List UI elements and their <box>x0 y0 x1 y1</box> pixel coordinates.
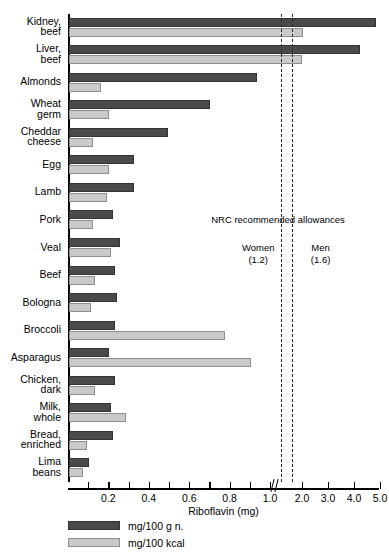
bar-mg-per-100g <box>69 458 89 467</box>
category-label: Bread, enriched <box>0 429 61 450</box>
category-label: Beef <box>0 269 61 280</box>
category-label: Asparagus <box>0 352 61 363</box>
x-tick <box>380 482 381 489</box>
bar-mg-per-100g <box>69 45 360 54</box>
bar-mg-per-100g <box>69 155 134 164</box>
bar-mg-per-100kcal <box>69 220 93 229</box>
category-label: Pork <box>0 214 61 225</box>
bar-mg-per-100kcal <box>69 331 225 340</box>
bar-mg-per-100kcal <box>69 358 251 367</box>
legend-swatch <box>68 521 120 530</box>
x-tick <box>230 482 231 489</box>
category-label: Almonds <box>0 76 61 87</box>
category-label: Wheat germ <box>0 98 61 119</box>
x-tick <box>149 482 150 489</box>
bar-mg-per-100g <box>69 73 257 82</box>
bar-mg-per-100kcal <box>69 413 126 422</box>
x-tick-label: 0.8 <box>222 492 237 504</box>
bar-mg-per-100g <box>69 321 115 330</box>
x-tick-label: 0.4 <box>141 492 156 504</box>
riboflavin-bar-chart: Kidney, beefLiver, beefAlmondsWheat germ… <box>0 0 389 560</box>
bar-mg-per-100g <box>69 18 376 27</box>
x-tick <box>189 482 190 489</box>
bar-mg-per-100kcal <box>69 303 91 312</box>
category-label: Chicken, dark <box>0 374 61 395</box>
x-tick <box>129 482 130 489</box>
reference-line-women <box>281 14 282 482</box>
bar-mg-per-100kcal <box>69 441 87 450</box>
bar-mg-per-100g <box>69 293 117 302</box>
nrc-annotation-title: NRC recommended allowances <box>211 214 345 225</box>
category-label: Milk, whole <box>0 401 61 422</box>
x-tick <box>169 482 170 489</box>
bar-mg-per-100kcal <box>69 165 109 174</box>
bar-mg-per-100g <box>69 403 111 412</box>
bar-mg-per-100g <box>69 238 120 247</box>
x-tick <box>302 482 303 489</box>
x-tick <box>88 482 89 489</box>
legend-swatch <box>68 538 120 547</box>
x-tick <box>328 482 329 489</box>
bar-mg-per-100kcal <box>69 276 95 285</box>
bar-mg-per-100g <box>69 210 113 219</box>
axis-break-marker <box>271 479 280 492</box>
category-label: Lamb <box>0 186 61 197</box>
x-tick-label: 5.0 <box>373 492 388 504</box>
x-tick <box>250 482 251 489</box>
bar-mg-per-100g <box>69 348 109 357</box>
plot-area: NRC recommended allowancesWomen (1.2)Men… <box>68 14 379 482</box>
reference-line-men <box>292 14 293 482</box>
legend-label: mg/100 kcal <box>128 537 185 549</box>
x-tick-label: 2.0 <box>295 492 310 504</box>
x-axis: 0.20.40.60.81.02.03.04.05.0 <box>68 482 379 484</box>
bar-mg-per-100kcal <box>69 138 93 147</box>
bar-mg-per-100kcal <box>69 468 83 477</box>
category-axis-labels: Kidney, beefLiver, beefAlmondsWheat germ… <box>0 14 64 482</box>
nrc-women-label: Women (1.2) <box>241 242 275 266</box>
x-tick <box>108 482 109 489</box>
bar-mg-per-100g <box>69 431 113 440</box>
nrc-men-label: Men (1.6) <box>304 242 338 266</box>
bar-mg-per-100kcal <box>69 248 111 257</box>
category-label: Liver, beef <box>0 43 61 64</box>
x-tick-label: 0.2 <box>101 492 116 504</box>
x-tick <box>209 482 210 489</box>
bar-mg-per-100g <box>69 376 115 385</box>
x-tick-label: 1.0 <box>263 492 278 504</box>
bar-mg-per-100kcal <box>69 28 303 37</box>
x-axis-line <box>68 488 379 490</box>
bar-mg-per-100kcal <box>69 110 109 119</box>
x-tick-label: 0.6 <box>182 492 197 504</box>
category-label: Lima beans <box>0 456 61 477</box>
category-label: Bologna <box>0 297 61 308</box>
category-label: Egg <box>0 159 61 170</box>
x-tick <box>354 482 355 489</box>
bar-mg-per-100g <box>69 128 168 137</box>
x-tick-label: 4.0 <box>347 492 362 504</box>
bar-mg-per-100g <box>69 100 210 109</box>
bar-mg-per-100g <box>69 266 115 275</box>
bar-mg-per-100kcal <box>69 386 95 395</box>
bar-mg-per-100kcal <box>69 55 302 64</box>
legend-label: mg/100 g n. <box>128 520 183 532</box>
category-label: Cheddar cheese <box>0 126 61 147</box>
category-label: Broccoli <box>0 324 61 335</box>
bar-mg-per-100g <box>69 183 134 192</box>
x-tick-label: 3.0 <box>321 492 336 504</box>
bar-mg-per-100kcal <box>69 193 107 202</box>
bar-mg-per-100kcal <box>69 83 101 92</box>
x-axis-title: Riboflavin (mg) <box>68 505 379 517</box>
category-label: Kidney, beef <box>0 16 61 37</box>
category-label: Veal <box>0 242 61 253</box>
